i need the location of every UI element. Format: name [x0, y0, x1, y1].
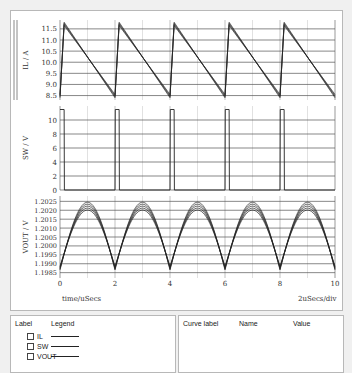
- y-tick-label: 10: [48, 117, 57, 125]
- y-tick-label: 1.2025: [34, 198, 57, 206]
- waveform-chart[interactable]: 11.511.010.510.09.59.08.5IL / A1086420SW…: [0, 0, 352, 312]
- legend-line-il: [51, 336, 79, 337]
- y-tick-label: 9.5: [46, 70, 57, 78]
- y-tick-label: 1.2015: [34, 216, 57, 224]
- x-tick-label: 0: [58, 280, 62, 288]
- x-tick-label: 4: [168, 280, 173, 288]
- curve-label-header: Curve label: [183, 320, 218, 327]
- y-tick-label: 11.5: [41, 25, 57, 33]
- checkbox-il[interactable]: [27, 333, 34, 340]
- x-tick-label: 8: [278, 280, 282, 288]
- y-tick-label: 4: [53, 159, 58, 167]
- cursor-panel: Curve label Name Value: [178, 315, 344, 373]
- name-header: Name: [239, 320, 258, 327]
- legend-line-sw: [51, 346, 79, 347]
- legend-panel: Label Legend IL SW VOUT: [10, 315, 176, 373]
- x-tick-label: 6: [223, 280, 228, 288]
- legend-legend-header: Legend: [51, 320, 74, 327]
- y-tick-label: 1.2020: [34, 207, 57, 215]
- y-tick-label: 6: [53, 145, 58, 153]
- legend-label-header: Label: [15, 320, 32, 327]
- y-tick-label: 1.2005: [34, 234, 57, 242]
- y-tick-label: 2: [53, 173, 57, 181]
- x-axis-scale: 2uSecs/div: [298, 295, 336, 303]
- y-tick-label: 1.2010: [34, 225, 57, 233]
- y-tick-label: 0: [53, 187, 57, 195]
- plot-sw[interactable]: 1086420SW / V: [22, 106, 335, 195]
- plot-il[interactable]: 11.511.010.510.09.59.08.5IL / A: [22, 20, 335, 100]
- x-tick-label: 2: [113, 280, 117, 288]
- checkbox-vout[interactable]: [27, 353, 34, 360]
- y-tick-label: 10.0: [41, 59, 57, 67]
- y-axis-label: VOUT / V: [22, 220, 30, 255]
- value-header: Value: [293, 320, 310, 327]
- checkbox-sw[interactable]: [27, 343, 34, 350]
- y-tick-label: 8: [53, 131, 57, 139]
- y-tick-label: 10.5: [41, 48, 57, 56]
- x-tick-label: 10: [331, 280, 340, 288]
- y-tick-label: 8.5: [46, 92, 57, 100]
- y-tick-label: 1.1985: [34, 269, 57, 277]
- y-tick-label: 11.0: [41, 37, 57, 45]
- y-tick-label: 9.0: [46, 81, 57, 89]
- y-tick-label: 1.2000: [34, 242, 57, 250]
- y-axis-label: IL / A: [22, 49, 30, 69]
- y-axis-label: SW / V: [22, 135, 30, 160]
- plot-vout[interactable]: 1.20251.20201.20151.20101.20051.20001.19…: [22, 196, 335, 278]
- legend-line-vout: [51, 356, 79, 357]
- y-tick-label: 1.1990: [34, 260, 57, 268]
- y-tick-label: 1.1995: [34, 251, 57, 259]
- x-axis-title: time/uSecs: [62, 295, 101, 303]
